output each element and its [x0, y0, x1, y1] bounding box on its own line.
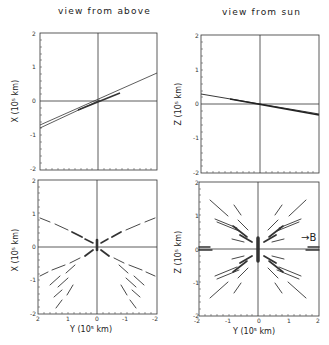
- trajectory-lines-top-left: [40, 73, 157, 128]
- figure-plots: [0, 0, 329, 345]
- streaks-bottom-left: [40, 218, 155, 308]
